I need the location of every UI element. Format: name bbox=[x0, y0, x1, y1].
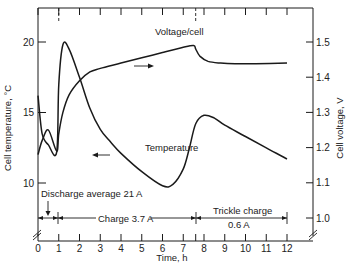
left-axis-ticks: 101520 bbox=[23, 37, 46, 189]
top-axis-ticks bbox=[38, 8, 287, 22]
left-y-tick-label: 15 bbox=[23, 107, 35, 118]
battery-charge-chart: 0123456789101112 101520 1.01.11.21.31.41… bbox=[0, 0, 350, 266]
left-y-tick-label: 20 bbox=[23, 37, 35, 48]
temperature-curve-label: Temperature bbox=[145, 142, 198, 153]
trickle-current-label: 0.6 A bbox=[228, 219, 250, 230]
x-axis-ticks: 0123456789101112 bbox=[35, 234, 293, 254]
left-y-tick-label: 10 bbox=[23, 178, 35, 189]
right-y-tick-label: 1.3 bbox=[316, 107, 330, 118]
right-axis-ticks: 1.01.11.21.31.41.5 bbox=[306, 37, 330, 224]
x-tick-label: 5 bbox=[139, 243, 145, 254]
x-axis-title: Time, h bbox=[156, 252, 187, 263]
x-tick-label: 11 bbox=[261, 243, 272, 254]
right-y-tick-label: 1.4 bbox=[316, 72, 330, 83]
right-y-tick-label: 1.5 bbox=[316, 37, 330, 48]
x-tick-label: 2 bbox=[77, 243, 83, 254]
charge-label: Charge 3.7 A bbox=[98, 213, 154, 224]
right-y-tick-label: 1.0 bbox=[316, 213, 330, 224]
x-tick-label: 8 bbox=[201, 243, 207, 254]
x-tick-label: 12 bbox=[281, 243, 293, 254]
x-tick-label: 3 bbox=[97, 243, 103, 254]
discharge-label: Discharge average 21 A bbox=[41, 188, 143, 199]
x-tick-label: 10 bbox=[240, 243, 252, 254]
x-tick-label: 4 bbox=[118, 243, 124, 254]
x-tick-label: 1 bbox=[56, 243, 62, 254]
arrow-right-icon bbox=[134, 64, 154, 69]
plot-frame bbox=[33, 8, 317, 241]
arrow-left-icon bbox=[92, 153, 110, 158]
trickle-charge-label: Trickle charge bbox=[213, 205, 272, 216]
axis-break-left bbox=[33, 230, 41, 240]
x-tick-label: 0 bbox=[35, 243, 41, 254]
discharge-arrow-icon bbox=[46, 201, 51, 216]
voltage-curve-label: Voltage/cell bbox=[155, 26, 204, 37]
right-axis-title: Cell voltage, V bbox=[334, 97, 345, 159]
left-axis-title: Cell temperature, °C bbox=[2, 85, 13, 171]
right-y-tick-label: 1.2 bbox=[316, 142, 330, 153]
right-y-tick-label: 1.1 bbox=[316, 177, 330, 188]
x-tick-label: 9 bbox=[222, 243, 228, 254]
